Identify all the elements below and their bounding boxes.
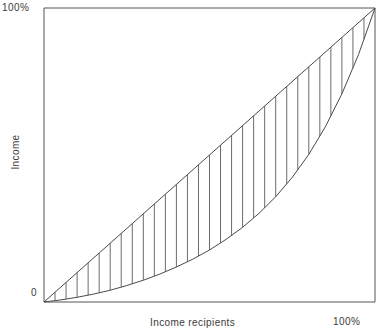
line-of-equality	[44, 8, 375, 302]
plot-area	[0, 0, 387, 335]
lorenz-curve-chart: 100% 0 100% Income recipients Income	[0, 0, 387, 335]
hatch-fill-region	[55, 18, 364, 301]
